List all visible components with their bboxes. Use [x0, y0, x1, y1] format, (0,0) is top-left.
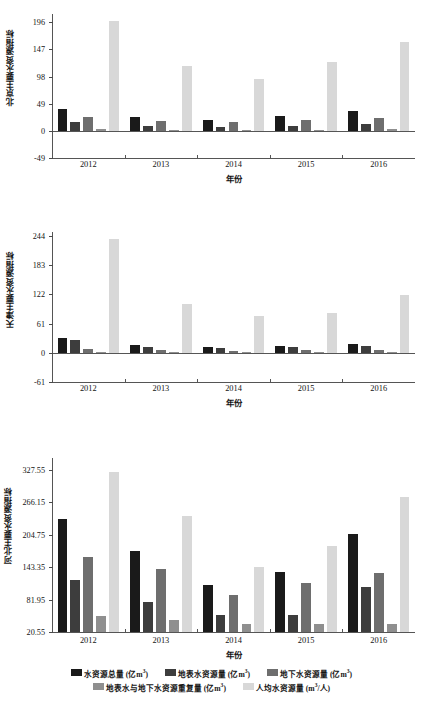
- bar: [96, 616, 106, 632]
- legend-row: 地表水与地下水资源重复量 (亿m3)人均水资源量 (m3/人): [0, 680, 423, 694]
- legend-item: 地下水资源量 (亿m3): [267, 666, 352, 680]
- bar: [182, 304, 192, 353]
- bar: [348, 534, 358, 632]
- bar: [143, 602, 153, 632]
- x-axis-tick-mark: [270, 379, 271, 383]
- x-axis-tick-label: 2015: [298, 384, 315, 393]
- legend-swatch: [71, 669, 82, 676]
- bar: [70, 122, 80, 131]
- bar: [275, 572, 285, 632]
- bar: [203, 585, 213, 632]
- bar: [229, 595, 239, 632]
- bar: [400, 295, 410, 353]
- x-axis-tick-mark: [197, 629, 198, 633]
- legend-swatch: [93, 683, 104, 690]
- x-axis-title: 年份: [226, 396, 242, 408]
- bar: [242, 352, 252, 353]
- x-axis-tick-label: 2012: [80, 160, 97, 169]
- bar: [288, 126, 298, 131]
- x-axis-tick-label: 2013: [153, 384, 170, 393]
- y-axis-tick-mark: [49, 470, 53, 471]
- bar: [242, 624, 252, 632]
- bar: [96, 352, 106, 353]
- figure-root: 水资源总量 (亿m3)地表水资源量 (亿m3)地下水资源量 (亿m3)地表水与地…: [0, 0, 423, 712]
- legend-swatch: [165, 669, 176, 676]
- y-axis-tick-mark: [49, 131, 53, 132]
- y-axis-title: 天津主要水资源指标: [6, 252, 18, 328]
- bar: [275, 346, 285, 353]
- x-axis-tick-label: 2014: [225, 384, 242, 393]
- legend-label: 水资源总量 (亿m3): [84, 666, 148, 680]
- y-axis-tick-mark: [49, 502, 53, 503]
- x-axis-tick-label: 2013: [153, 160, 170, 169]
- y-axis-tick-label: -49: [0, 154, 45, 163]
- bar: [83, 117, 93, 131]
- bar: [327, 546, 337, 632]
- bar: [301, 583, 311, 632]
- y-axis-tick-mark: [49, 22, 53, 23]
- y-axis-tick-mark: [49, 382, 53, 383]
- bar: [216, 127, 226, 130]
- bar: [156, 350, 166, 353]
- y-axis-line: [52, 14, 53, 158]
- x-axis-tick-mark: [342, 629, 343, 633]
- bar: [203, 347, 213, 353]
- y-axis-tick-mark: [49, 77, 53, 78]
- bar: [130, 551, 140, 632]
- y-axis-tick-label: 81.95: [0, 595, 45, 604]
- bar: [58, 338, 68, 353]
- bar: [70, 580, 80, 632]
- bar: [361, 587, 371, 632]
- x-axis-tick-label: 2016: [370, 636, 387, 645]
- legend: 水资源总量 (亿m3)地表水资源量 (亿m3)地下水资源量 (亿m3)地表水与地…: [0, 666, 423, 693]
- bar: [96, 129, 106, 131]
- x-axis-baseline: [52, 353, 415, 354]
- bar: [254, 79, 264, 131]
- bar: [348, 344, 358, 353]
- bar: [229, 351, 239, 353]
- y-axis-line: [52, 232, 53, 382]
- bar: [327, 313, 337, 352]
- bar: [182, 516, 192, 632]
- legend-label: 人均水资源量 (m3/人): [256, 680, 330, 694]
- bar: [109, 472, 119, 632]
- bar: [387, 129, 397, 131]
- bar: [314, 624, 324, 632]
- y-axis-tick-mark: [49, 49, 53, 50]
- bar: [143, 126, 153, 131]
- bar: [169, 620, 179, 632]
- y-axis-tick-mark: [49, 265, 53, 266]
- bar: [254, 567, 264, 632]
- legend-item: 人均水资源量 (m3/人): [243, 680, 330, 694]
- x-axis-tick-mark: [125, 155, 126, 159]
- bar: [169, 130, 179, 131]
- legend-label: 地表水与地下水资源重复量 (亿m3): [106, 680, 226, 694]
- bar: [83, 349, 93, 353]
- x-axis-tick-label: 2015: [298, 636, 315, 645]
- bar: [327, 62, 337, 131]
- bar: [229, 122, 239, 131]
- bar: [301, 350, 311, 352]
- legend-swatch: [243, 683, 254, 690]
- y-axis-tick-label: 20.55: [0, 628, 45, 637]
- bar: [156, 121, 166, 130]
- x-axis-tick-label: 2016: [370, 384, 387, 393]
- bar: [314, 352, 324, 353]
- y-axis-tick-mark: [49, 294, 53, 295]
- y-axis-tick-mark: [49, 324, 53, 325]
- legend-label: 地下水资源量 (亿m3): [280, 666, 352, 680]
- y-axis-title: 河北主要水资源指标: [4, 488, 16, 564]
- x-axis-tick-mark: [197, 155, 198, 159]
- legend-item: 地表水与地下水资源重复量 (亿m3): [93, 680, 226, 694]
- x-axis-tick-mark: [270, 629, 271, 633]
- bar: [58, 109, 68, 131]
- x-axis-title: 年份: [226, 172, 242, 184]
- bar: [361, 346, 371, 353]
- bar: [387, 624, 397, 632]
- x-axis-tick-mark: [197, 379, 198, 383]
- x-axis-tick-label: 2016: [370, 160, 387, 169]
- y-axis-tick-mark: [49, 600, 53, 601]
- y-axis-tick-mark: [49, 236, 53, 237]
- y-axis-line: [52, 458, 53, 632]
- bar: [387, 352, 397, 353]
